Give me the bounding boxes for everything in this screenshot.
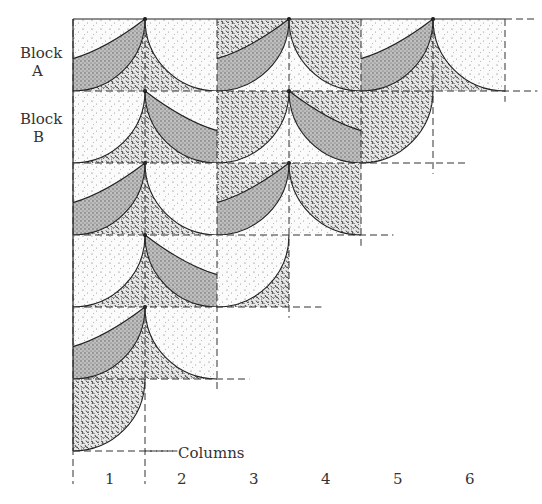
- block-b-label-word: Block: [20, 110, 63, 128]
- column-label: 4: [321, 470, 331, 488]
- quilt-diagram: Block A Block B Columns 123456: [0, 0, 542, 504]
- column-label: 6: [465, 470, 475, 488]
- column-labels: 123456: [105, 470, 475, 488]
- block-b-row2-3: [361, 91, 433, 163]
- block-a-label-letter: A: [31, 62, 43, 80]
- column-label: 2: [177, 470, 187, 488]
- column-label: 3: [249, 470, 259, 488]
- column-label: 1: [105, 470, 115, 488]
- block-a-label-word: Block: [20, 44, 63, 62]
- block-b-label-letter: B: [33, 128, 44, 146]
- quarter-fill: [361, 91, 433, 163]
- quarter-fill: [73, 379, 145, 451]
- column-label: 5: [393, 470, 403, 488]
- block-b-row6-1: [73, 379, 145, 451]
- block-b-row4-2: [217, 235, 289, 307]
- columns-axis-label: Columns: [178, 444, 245, 462]
